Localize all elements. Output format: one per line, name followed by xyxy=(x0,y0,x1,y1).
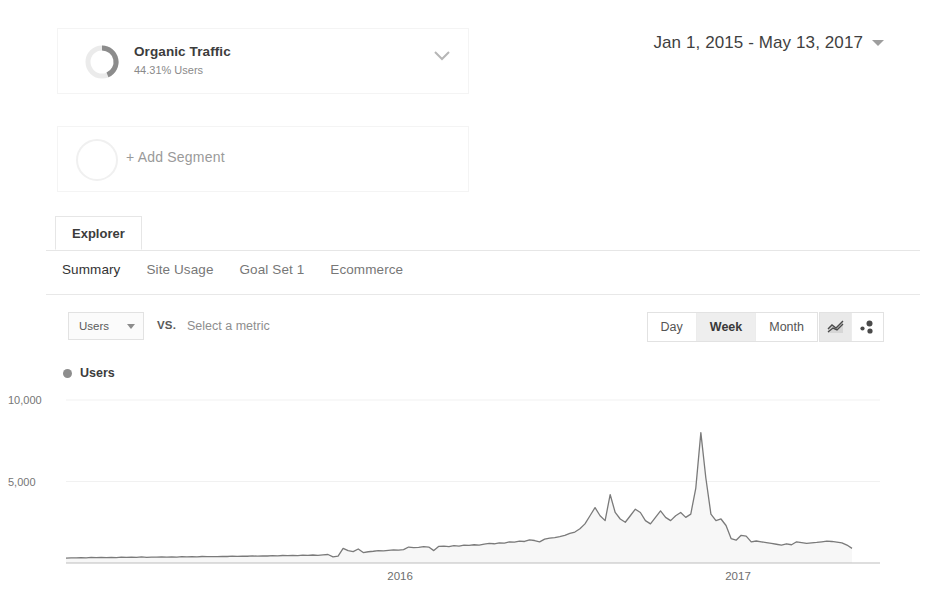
tab-explorer[interactable]: Explorer xyxy=(55,216,142,250)
segment-donut-chart xyxy=(83,43,121,81)
subtab-goal-set-1[interactable]: Goal Set 1 xyxy=(240,262,305,277)
y-tick-label: 5,000 xyxy=(8,476,36,488)
segment-bar: Organic Traffic 44.31% Users + Add Segme… xyxy=(0,0,928,210)
chevron-down-icon xyxy=(127,324,135,329)
vs-label: VS. xyxy=(157,319,176,331)
tab-strip: Explorer xyxy=(0,216,928,252)
motion-chart-icon[interactable] xyxy=(852,313,883,341)
metric-controls-row: Users VS. Select a metric Day Week Month xyxy=(0,306,928,350)
chart-canvas: 10,0005,000 20162017 xyxy=(0,386,928,586)
section-divider xyxy=(46,294,920,295)
subtab-site-usage[interactable]: Site Usage xyxy=(146,262,213,277)
chart-line-series xyxy=(66,433,852,559)
x-tick-label: 2016 xyxy=(387,570,413,582)
primary-metric-label: Users xyxy=(79,320,109,332)
granularity-day-button[interactable]: Day xyxy=(648,313,697,341)
primary-metric-select[interactable]: Users xyxy=(68,312,144,340)
tab-divider xyxy=(46,250,920,251)
segment-name: Organic Traffic xyxy=(134,43,231,61)
line-chart-icon[interactable] xyxy=(820,313,852,341)
date-range-text: Jan 1, 2015 - May 13, 2017 xyxy=(653,33,863,53)
legend-color-dot xyxy=(63,369,72,378)
legend-series-label: Users xyxy=(80,366,115,380)
chart-gridlines xyxy=(66,400,880,482)
users-over-time-chart[interactable]: 10,0005,000 20162017 xyxy=(0,386,928,586)
chevron-down-icon[interactable] xyxy=(432,49,452,63)
subtab-summary[interactable]: Summary xyxy=(62,262,120,277)
subtab-ecommerce[interactable]: Ecommerce xyxy=(330,262,403,277)
chart-x-axis-labels: 20162017 xyxy=(387,570,751,582)
chart-y-axis-labels: 10,0005,000 xyxy=(8,394,42,488)
chart-area-fill xyxy=(66,433,852,563)
granularity-week-button[interactable]: Week xyxy=(697,313,756,341)
add-segment-label: + Add Segment xyxy=(126,149,225,165)
y-tick-label: 10,000 xyxy=(8,394,42,406)
segment-card-add-segment[interactable]: + Add Segment xyxy=(57,126,469,192)
secondary-metric-select[interactable]: Select a metric xyxy=(187,319,270,333)
caret-down-icon xyxy=(872,40,884,46)
subtab-list: Summary Site Usage Goal Set 1 Ecommerce xyxy=(62,262,403,277)
granularity-toggle-group: Day Week Month xyxy=(647,312,818,342)
chart-type-toggle-group xyxy=(819,312,884,342)
date-range-selector[interactable]: Jan 1, 2015 - May 13, 2017 xyxy=(653,33,884,53)
segment-card-organic-traffic[interactable]: Organic Traffic 44.31% Users xyxy=(57,28,469,94)
segment-subtitle: 44.31% Users xyxy=(134,62,231,78)
x-tick-label: 2017 xyxy=(725,570,751,582)
chart-legend: Users xyxy=(63,366,115,380)
segment-text-block: Organic Traffic 44.31% Users xyxy=(134,43,231,78)
add-segment-ring-icon xyxy=(76,139,118,181)
granularity-month-button[interactable]: Month xyxy=(756,313,817,341)
